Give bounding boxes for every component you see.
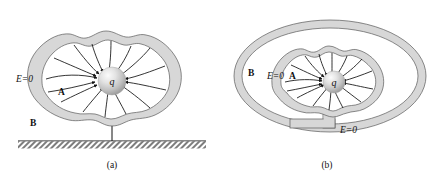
region-label-b-cavity: A (289, 71, 296, 81)
ground-symbol-a (18, 141, 206, 149)
panel-caption-b: (b) (321, 160, 332, 171)
field-zero-label-a: E=0 (15, 74, 33, 84)
physics-figure-svg: q E=0 A B (a) (0, 0, 432, 181)
panel-b: q E=0 A B E=0 (b) (234, 20, 426, 171)
figure-root: q E=0 A B (a) (0, 0, 432, 181)
charge-label-a: q (110, 76, 115, 87)
region-label-a-cavity: A (58, 87, 65, 97)
panel-a: q E=0 A B (a) (15, 31, 206, 171)
field-zero-label-b-outer: E=0 (339, 125, 357, 135)
field-zero-label-b-inner: E=0 (266, 71, 284, 81)
panel-caption-a: (a) (107, 160, 118, 171)
region-label-b-outside: B (248, 68, 255, 78)
charge-label-b: q (332, 77, 337, 88)
region-label-a-outside: B (30, 118, 37, 128)
